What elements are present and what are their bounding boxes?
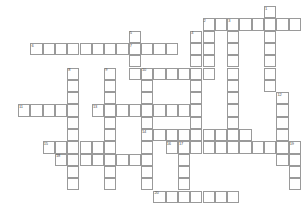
crossword-cell[interactable] [67, 166, 79, 178]
crossword-cell[interactable] [166, 43, 178, 55]
crossword-cell[interactable] [67, 154, 79, 166]
crossword-cell[interactable] [116, 104, 128, 116]
crossword-cell[interactable] [239, 18, 251, 30]
crossword-cell[interactable] [30, 104, 42, 116]
crossword-cell[interactable] [141, 166, 153, 178]
crossword-cell[interactable] [203, 18, 215, 30]
crossword-cell[interactable] [104, 117, 116, 129]
crossword-cell[interactable] [141, 68, 153, 80]
crossword-cell[interactable] [178, 166, 190, 178]
crossword-cell[interactable] [178, 178, 190, 190]
crossword-cell[interactable] [80, 141, 92, 153]
crossword-cell[interactable] [92, 104, 104, 116]
crossword-cell[interactable] [289, 154, 301, 166]
crossword-cell[interactable] [166, 68, 178, 80]
crossword-cell[interactable] [129, 68, 141, 80]
crossword-cell[interactable] [55, 141, 67, 153]
crossword-cell[interactable] [43, 104, 55, 116]
crossword-cell[interactable] [67, 80, 79, 92]
crossword-cell[interactable] [276, 141, 288, 153]
crossword-cell[interactable] [203, 129, 215, 141]
crossword-cell[interactable] [141, 178, 153, 190]
crossword-cell[interactable] [153, 43, 165, 55]
crossword-cell[interactable] [227, 141, 239, 153]
crossword-cell[interactable] [104, 104, 116, 116]
crossword-cell[interactable] [264, 31, 276, 43]
crossword-cell[interactable] [276, 92, 288, 104]
crossword-cell[interactable] [203, 55, 215, 67]
crossword-cell[interactable] [141, 117, 153, 129]
crossword-cell[interactable] [276, 104, 288, 116]
crossword-cell[interactable] [166, 129, 178, 141]
crossword-cell[interactable] [141, 104, 153, 116]
crossword-cell[interactable] [55, 43, 67, 55]
crossword-cell[interactable] [190, 117, 202, 129]
crossword-cell[interactable] [141, 154, 153, 166]
crossword-cell[interactable] [141, 141, 153, 153]
crossword-cell[interactable] [190, 55, 202, 67]
crossword-cell[interactable] [289, 18, 301, 30]
crossword-cell[interactable] [129, 55, 141, 67]
crossword-cell[interactable] [203, 68, 215, 80]
crossword-cell[interactable] [190, 31, 202, 43]
crossword-cell[interactable] [252, 141, 264, 153]
crossword-cell[interactable] [67, 141, 79, 153]
crossword-cell[interactable] [92, 43, 104, 55]
crossword-cell[interactable] [227, 43, 239, 55]
crossword-cell[interactable] [203, 31, 215, 43]
crossword-cell[interactable] [67, 178, 79, 190]
crossword-cell[interactable] [178, 191, 190, 203]
crossword-cell[interactable] [227, 55, 239, 67]
crossword-cell[interactable] [227, 191, 239, 203]
crossword-cell[interactable] [153, 104, 165, 116]
crossword-cell[interactable] [264, 18, 276, 30]
crossword-cell[interactable] [264, 80, 276, 92]
crossword-cell[interactable] [104, 92, 116, 104]
crossword-cell[interactable] [190, 191, 202, 203]
crossword-cell[interactable] [153, 129, 165, 141]
crossword-cell[interactable] [276, 117, 288, 129]
crossword-cell[interactable] [104, 178, 116, 190]
crossword-cell[interactable] [92, 141, 104, 153]
crossword-cell[interactable] [30, 43, 42, 55]
crossword-cell[interactable] [264, 6, 276, 18]
crossword-cell[interactable] [227, 80, 239, 92]
crossword-cell[interactable] [239, 129, 251, 141]
crossword-cell[interactable] [129, 43, 141, 55]
crossword-cell[interactable] [67, 129, 79, 141]
crossword-cell[interactable] [190, 43, 202, 55]
crossword-cell[interactable] [141, 80, 153, 92]
crossword-cell[interactable] [166, 141, 178, 153]
crossword-cell[interactable] [92, 154, 104, 166]
crossword-cell[interactable] [104, 166, 116, 178]
crossword-cell[interactable] [178, 104, 190, 116]
crossword-cell[interactable] [116, 154, 128, 166]
crossword-cell[interactable] [43, 43, 55, 55]
crossword-grid[interactable]: 1234567891012111314151617191820 [0, 0, 307, 208]
crossword-cell[interactable] [239, 141, 251, 153]
crossword-cell[interactable] [276, 129, 288, 141]
crossword-cell[interactable] [80, 43, 92, 55]
crossword-cell[interactable] [276, 18, 288, 30]
crossword-cell[interactable] [104, 68, 116, 80]
crossword-cell[interactable] [166, 104, 178, 116]
crossword-cell[interactable] [104, 141, 116, 153]
crossword-cell[interactable] [227, 18, 239, 30]
crossword-cell[interactable] [129, 104, 141, 116]
crossword-cell[interactable] [67, 92, 79, 104]
crossword-cell[interactable] [227, 117, 239, 129]
crossword-cell[interactable] [203, 191, 215, 203]
crossword-cell[interactable] [190, 68, 202, 80]
crossword-cell[interactable] [190, 129, 202, 141]
crossword-cell[interactable] [55, 104, 67, 116]
crossword-cell[interactable] [264, 68, 276, 80]
crossword-cell[interactable] [264, 141, 276, 153]
crossword-cell[interactable] [67, 43, 79, 55]
crossword-cell[interactable] [227, 68, 239, 80]
crossword-cell[interactable] [178, 141, 190, 153]
crossword-cell[interactable] [129, 154, 141, 166]
crossword-cell[interactable] [129, 31, 141, 43]
crossword-cell[interactable] [289, 178, 301, 190]
crossword-cell[interactable] [67, 68, 79, 80]
crossword-cell[interactable] [104, 43, 116, 55]
